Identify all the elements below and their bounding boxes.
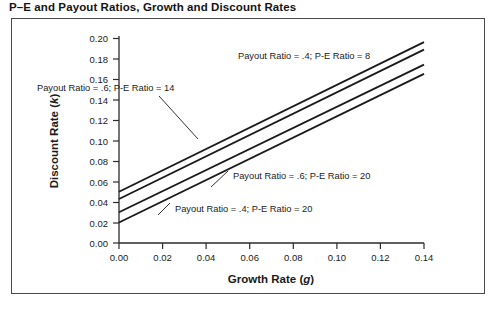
y-tick-label: 0.14 bbox=[90, 95, 109, 106]
y-tick-label: 0.12 bbox=[90, 115, 109, 126]
figure-title: P–E and Payout Ratios, Growth and Discou… bbox=[9, 1, 296, 13]
y-axis-tick-labels: 0.20 0.18 0.16 0.14 0.12 0.10 0.08 0.06 … bbox=[90, 33, 109, 249]
y-tick-label: 0.20 bbox=[90, 33, 109, 44]
svg-text:Growth Rate (g): Growth Rate (g) bbox=[228, 273, 314, 285]
leader-line-payout-6-pe-14 bbox=[159, 96, 198, 139]
x-tick-label: 0.06 bbox=[240, 252, 259, 263]
x-tick-label: 0.04 bbox=[197, 252, 216, 263]
series-line-payout-4-pe-8 bbox=[119, 42, 424, 192]
data-series-lines bbox=[119, 42, 424, 222]
svg-text:Discount Rate (k): Discount Rate (k) bbox=[48, 94, 60, 189]
y-tick-label: 0.06 bbox=[90, 177, 109, 188]
annotation-payout-4-pe-8: Payout Ratio = .4; P-E Ratio = 8 bbox=[238, 51, 370, 61]
y-tick-label: 0.02 bbox=[90, 218, 109, 229]
x-axis-title: Growth Rate (g) bbox=[228, 273, 314, 285]
x-tick-label: 0.14 bbox=[415, 252, 434, 263]
annotation-labels: Payout Ratio = .4; P-E Ratio = 8 Payout … bbox=[37, 51, 370, 214]
y-tick-label: 0.08 bbox=[90, 156, 109, 167]
y-axis-title-paren: ) bbox=[48, 94, 60, 98]
y-axis-title: Discount Rate (k) bbox=[48, 94, 60, 189]
x-axis-title-text: Growth Rate ( bbox=[228, 273, 304, 285]
figure-container: P–E and Payout Ratios, Growth and Discou… bbox=[0, 0, 497, 315]
y-tick-label: 0.10 bbox=[90, 136, 109, 147]
x-tick-label: 0.10 bbox=[328, 252, 347, 263]
leader-line-payout-4-pe-20 bbox=[158, 203, 170, 215]
x-axis-title-variable: g bbox=[302, 273, 310, 285]
annotation-payout-4-pe-20: Payout Ratio = .4; P-E Ratio = 20 bbox=[175, 204, 312, 214]
y-tick-label: 0.04 bbox=[90, 197, 109, 208]
x-axis-title-paren: ) bbox=[310, 273, 314, 285]
annotation-payout-6-pe-20: Payout Ratio = .6; P-E Ratio = 20 bbox=[233, 171, 370, 181]
y-axis-ticks bbox=[113, 39, 119, 244]
x-tick-label: 0.08 bbox=[284, 252, 303, 263]
x-tick-label: 0.02 bbox=[153, 252, 172, 263]
series-line-payout-4-pe-20 bbox=[119, 74, 424, 223]
y-axis-title-text: Discount Rate ( bbox=[48, 104, 60, 189]
x-tick-label: 0.00 bbox=[110, 252, 129, 263]
x-axis-ticks bbox=[119, 243, 424, 249]
y-tick-label: 0.00 bbox=[90, 238, 109, 249]
plot-svg: 0.20 0.18 0.16 0.14 0.12 0.10 0.08 0.06 … bbox=[12, 19, 486, 295]
x-axis-tick-labels: 0.00 0.02 0.04 0.06 0.08 0.10 0.12 0.14 bbox=[110, 252, 434, 263]
y-tick-label: 0.18 bbox=[90, 54, 109, 65]
x-tick-label: 0.12 bbox=[371, 252, 390, 263]
annotation-payout-6-pe-14: Payout Ratio = .6; P-E Ratio = 14 bbox=[37, 83, 174, 93]
plot-frame: 0.20 0.18 0.16 0.14 0.12 0.10 0.08 0.06 … bbox=[11, 18, 485, 294]
